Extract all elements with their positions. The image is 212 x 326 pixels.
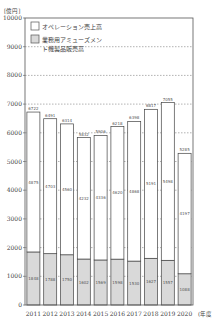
y-axis-unit: [億円]: [4, 7, 20, 15]
x-axis-unit: (年度): [198, 310, 212, 318]
legend: オペレーション売上高 業務用アミューズメン ト機製品販売高: [31, 22, 102, 53]
legend-label-machine-sales-line2: ト機製品販売高: [42, 45, 84, 53]
y-tick-label: 10000: [3, 14, 22, 21]
data-label-machine-sales: 1788: [45, 277, 56, 282]
data-label-total: 5832: [79, 132, 90, 137]
data-label-operation: 4703: [45, 184, 56, 189]
stacked-bar-chart: 1848487567221788470364911750456063141602…: [0, 0, 212, 326]
bars: 1848487567221788470364911750456063141602…: [27, 97, 191, 305]
y-tick-label: 6000: [7, 129, 22, 136]
x-tick-label: 2011: [26, 310, 41, 317]
x-tick-label: 2014: [76, 310, 91, 317]
data-label-operation: 5191: [146, 181, 157, 186]
data-label-total: 6218: [112, 121, 123, 126]
y-tick-label: 4000: [7, 186, 22, 193]
data-label-total: 5906: [96, 129, 107, 134]
legend-swatch-operation: [31, 22, 39, 30]
x-tick-label: 2015: [93, 310, 108, 317]
x-tick-label: 2013: [59, 310, 74, 317]
x-tick-label: 2017: [127, 310, 142, 317]
y-tick-label: 3000: [7, 215, 22, 222]
y-tick-label: 7000: [7, 100, 22, 107]
x-tick-label: 2012: [43, 310, 58, 317]
data-label-operation: 4868: [129, 189, 140, 194]
x-tick-label: 2019: [160, 310, 175, 317]
data-label-total: 6817: [146, 103, 157, 108]
x-tick-label: 2018: [143, 310, 158, 317]
data-label-machine-sales: 1750: [62, 277, 73, 282]
y-tick-label: 2000: [7, 244, 22, 251]
x-tick-label: 2016: [110, 310, 125, 317]
data-label-machine-sales: 1530: [129, 281, 140, 286]
data-label-machine-sales: 1569: [96, 280, 107, 285]
x-axis: 2011201220132014201520162017201820192020…: [26, 310, 212, 318]
x-tick-label: 2020: [177, 310, 192, 317]
legend-label-machine-sales-line1: 業務用アミューズメン: [42, 36, 102, 44]
data-label-machine-sales: 1088: [180, 287, 191, 292]
data-label-total: 6314: [62, 118, 73, 123]
y-axis: 0100020003000400050006000700080009000100…: [3, 14, 25, 308]
data-label-machine-sales: 1602: [79, 280, 90, 285]
legend-swatch-machine-sales: [31, 35, 39, 43]
data-label-total: 5285: [180, 147, 191, 152]
data-label-machine-sales: 1627: [146, 279, 157, 284]
data-label-operation: 4875: [28, 180, 39, 185]
data-label-total: 7055: [163, 97, 174, 102]
data-label-operation: 4232: [79, 196, 90, 201]
y-tick-label: 9000: [7, 43, 22, 50]
data-label-machine-sales: 1598: [112, 280, 123, 285]
data-label-total: 6491: [45, 113, 56, 118]
data-label-operation: 4197: [180, 211, 191, 216]
y-tick-label: 1000: [7, 272, 22, 279]
y-tick-label: 5000: [7, 158, 22, 165]
data-label-operation: 4620: [112, 190, 123, 195]
data-label-total: 6398: [129, 115, 140, 120]
legend-label-operation: オペレーション売上高: [42, 23, 102, 31]
data-label-operation: 4336: [96, 195, 107, 200]
y-tick-label: 8000: [7, 71, 22, 78]
y-tick-label: 0: [18, 301, 22, 308]
data-label-machine-sales: 1848: [28, 276, 39, 281]
data-label-operation: 4560: [62, 187, 73, 192]
data-label-machine-sales: 1557: [163, 280, 174, 285]
data-label-operation: 5498: [163, 179, 174, 184]
data-label-total: 6722: [28, 106, 39, 111]
